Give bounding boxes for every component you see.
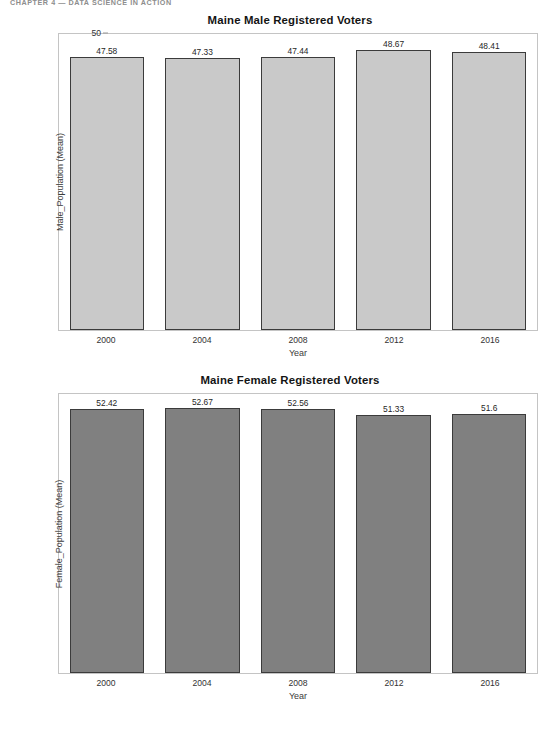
bar-value-label: 48.41 (479, 41, 500, 51)
bar-group-female: 52.4252.6752.5651.3351.6 (59, 394, 537, 673)
x-axis-tick: 2004 (154, 674, 250, 689)
chart-title-female: Maine Female Registered Voters (0, 374, 554, 386)
bar-value-label: 47.44 (288, 46, 309, 56)
bar[interactable]: 47.44 (261, 57, 336, 330)
bar-slot: 52.56 (250, 394, 346, 673)
x-axis-tick: 2000 (58, 331, 154, 346)
bar-slot: 51.33 (346, 394, 442, 673)
bar-slot: 48.41 (441, 34, 537, 330)
figure-male-registered-voters: Maine Male Registered Voters Male_Popula… (0, 14, 554, 374)
chart-title-male: Maine Male Registered Voters (0, 14, 554, 26)
bar-value-label: 52.56 (288, 398, 309, 408)
bar[interactable]: 52.67 (165, 408, 240, 673)
x-axis-tick: 2008 (250, 674, 346, 689)
bar[interactable]: 47.33 (165, 58, 240, 330)
x-axis-tick: 2016 (442, 331, 538, 346)
bar-slot: 52.67 (155, 394, 251, 673)
bar[interactable]: 48.41 (452, 52, 527, 330)
running-header: CHAPTER 4 — DATA SCIENCE IN ACTION (10, 0, 172, 7)
bar-value-label: 52.67 (192, 397, 213, 407)
bar[interactable]: 48.67 (356, 50, 431, 330)
bar[interactable]: 47.58 (70, 57, 145, 330)
bar[interactable]: 52.56 (261, 409, 336, 673)
y-axis-tick-mark (103, 32, 108, 33)
bar[interactable]: 51.33 (356, 415, 431, 673)
x-axis-label-female: Year (0, 691, 554, 701)
x-axis-female: 20002004200820122016 (58, 674, 538, 689)
x-axis-tick: 2012 (346, 674, 442, 689)
bar-value-label: 51.6 (481, 403, 497, 413)
bar[interactable]: 51.6 (452, 414, 527, 673)
bar-slot: 47.44 (250, 34, 346, 330)
bar-value-label: 47.58 (96, 46, 117, 56)
x-axis-tick: 2008 (250, 331, 346, 346)
bar-slot: 48.67 (346, 34, 442, 330)
bar-value-label: 51.33 (383, 404, 404, 414)
figure-female-registered-voters: Maine Female Registered Voters Female_Po… (0, 374, 554, 752)
bar-slot: 47.58 (59, 34, 155, 330)
x-axis-male: 20002004200820122016 (58, 331, 538, 346)
plot-area-female: Female_Population (Mean) 01020304050 52.… (58, 393, 538, 674)
x-axis-tick: 2012 (346, 331, 442, 346)
bar-slot: 47.33 (155, 34, 251, 330)
x-axis-tick: 2000 (58, 674, 154, 689)
bar-slot: 52.42 (59, 394, 155, 673)
bar-value-label: 52.42 (96, 398, 117, 408)
bar[interactable]: 52.42 (70, 409, 145, 673)
bar-value-label: 48.67 (383, 39, 404, 49)
x-axis-tick: 2004 (154, 331, 250, 346)
bar-group-male: 47.5847.3347.4448.6748.41 (59, 34, 537, 330)
x-axis-tick: 2016 (442, 674, 538, 689)
bar-value-label: 47.33 (192, 47, 213, 57)
x-axis-label-male: Year (0, 348, 554, 358)
bar-slot: 51.6 (441, 394, 537, 673)
plot-area-male: Male_Population (Mean) 01020304050 47.58… (58, 33, 538, 331)
